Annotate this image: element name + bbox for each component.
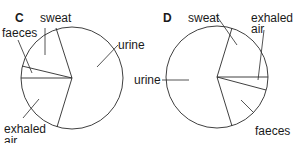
pie-d-label-sweat: sweat xyxy=(188,11,220,25)
pie-d-title: D xyxy=(163,11,172,25)
pie-chart-c: C sweat faeces urine exhaled air xyxy=(2,11,145,143)
pie-d-divider-exhaled-faeces xyxy=(217,77,266,90)
pie-d-divider-faeces-urine xyxy=(217,77,232,126)
pie-c-leader-urine xyxy=(97,45,118,67)
pie-d-leader-faeces xyxy=(241,100,253,112)
pie-chart-d: D sweat exhaled air urine faeces xyxy=(134,11,293,138)
pie-c-label-air: air xyxy=(4,134,17,143)
pie-c-title: C xyxy=(15,11,24,25)
pie-c-divider-exhaled-urine xyxy=(57,78,72,127)
pie-c-label-urine: urine xyxy=(118,38,145,52)
pie-c-leader-faeces xyxy=(18,40,32,73)
pie-d-label-urine: urine xyxy=(134,73,161,87)
pie-d-label-faeces: faeces xyxy=(255,124,290,138)
pie-c-label-faeces: faeces xyxy=(2,26,37,40)
pie-d-divider-urine-sweat xyxy=(217,28,232,77)
pie-d-label-air: air xyxy=(251,22,264,36)
pie-c-divider-sweat-urine xyxy=(56,28,72,78)
figure: C sweat faeces urine exhaled air D sweat… xyxy=(0,0,293,143)
pie-c-label-sweat: sweat xyxy=(40,11,72,25)
